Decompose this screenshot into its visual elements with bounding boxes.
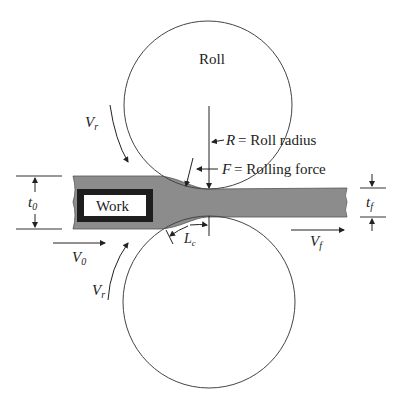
contact-length-tick-left bbox=[166, 230, 173, 244]
bottom-roll-velocity-label: Vr bbox=[92, 282, 105, 300]
exit-velocity-label: Vf bbox=[310, 233, 323, 251]
force-pointer bbox=[186, 158, 193, 186]
tf-label: tf bbox=[366, 194, 374, 212]
radius-symbol: R bbox=[225, 132, 235, 148]
contact-length-label: Lc bbox=[183, 231, 196, 248]
t0-label: t0 bbox=[28, 194, 37, 212]
rolling-diagram: Work Roll R = Roll radius F = Rolling fo… bbox=[0, 0, 402, 401]
bottom-roll-velocity-arrow bbox=[108, 243, 128, 300]
force-symbol: F bbox=[221, 161, 232, 177]
work-label: Work bbox=[96, 198, 129, 214]
force-label: = Rolling force bbox=[234, 161, 326, 177]
contact-length-arrow bbox=[190, 225, 207, 226]
radius-label: = Roll radius bbox=[238, 132, 317, 148]
top-roll-velocity-label: Vr bbox=[85, 114, 98, 132]
top-roll-label: Roll bbox=[199, 51, 225, 67]
top-roll-velocity-arrow bbox=[110, 105, 128, 162]
bottom-roll bbox=[123, 216, 295, 388]
radius-pointer bbox=[212, 140, 224, 142]
diagram-canvas: Work Roll R = Roll radius F = Rolling fo… bbox=[0, 0, 402, 401]
entry-velocity-label: V0 bbox=[72, 249, 86, 267]
